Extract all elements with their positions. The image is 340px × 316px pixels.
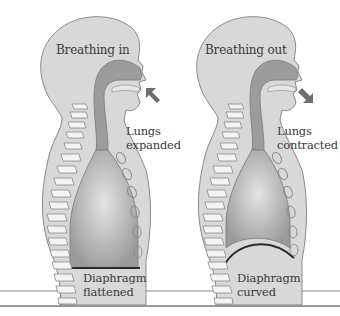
label-lungs-out-2: contracted: [277, 139, 338, 152]
label-lungs-in-2: expanded: [126, 139, 181, 152]
figure-breathing-in: [41, 17, 160, 305]
figure-breathing-out: [197, 17, 313, 305]
label-lungs-in-1: Lungs: [126, 125, 161, 138]
breathing-diagram: Breathing in Lungs expanded Diaphragm fl…: [0, 0, 340, 316]
title-breathing-out: Breathing out: [205, 44, 287, 57]
label-diaphragm-out-2: curved: [237, 286, 276, 299]
label-lungs-out-1: Lungs: [277, 125, 312, 138]
diagram-canvas: [0, 0, 340, 316]
arrow-in-icon: [146, 88, 160, 103]
label-diaphragm-in-1: Diaphragm: [83, 272, 146, 285]
label-diaphragm-in-2: flattened: [83, 286, 134, 299]
arrow-out-icon: [298, 88, 313, 103]
label-diaphragm-out-1: Diaphragm: [237, 272, 300, 285]
title-breathing-in: Breathing in: [56, 44, 130, 57]
